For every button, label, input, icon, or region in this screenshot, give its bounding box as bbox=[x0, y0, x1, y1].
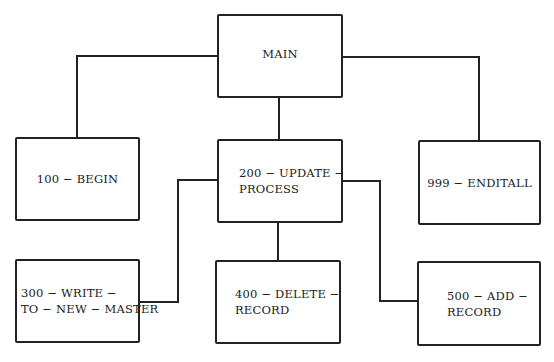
node-300-write-to-new-master: 300 − WRITE − TO − NEW − MASTER bbox=[15, 259, 140, 343]
node-label: 200 − UPDATE − PROCESS bbox=[219, 165, 344, 197]
node-label: 999 − ENDITALL bbox=[427, 175, 532, 191]
edge-main-to-100 bbox=[77, 56, 217, 138]
node-main: MAIN bbox=[217, 14, 343, 98]
edge-main-to-999 bbox=[342, 57, 479, 140]
node-label: 100 − BEGIN bbox=[37, 171, 119, 187]
node-999-enditall: 999 − ENDITALL bbox=[418, 140, 541, 225]
node-label: MAIN bbox=[262, 46, 298, 62]
edge-200-to-500 bbox=[342, 181, 417, 301]
node-label: 500 − ADD − RECORD bbox=[419, 288, 528, 320]
node-100-begin: 100 − BEGIN bbox=[15, 137, 140, 221]
node-label: 400 − DELETE − RECORD bbox=[217, 286, 340, 318]
node-label: 300 − WRITE − TO − NEW − MASTER bbox=[17, 285, 158, 317]
edge-200-to-300 bbox=[139, 180, 217, 302]
node-500-add-record: 500 − ADD − RECORD bbox=[417, 261, 541, 346]
node-400-delete-record: 400 − DELETE − RECORD bbox=[215, 260, 341, 344]
node-200-update-process: 200 − UPDATE − PROCESS bbox=[217, 139, 343, 223]
